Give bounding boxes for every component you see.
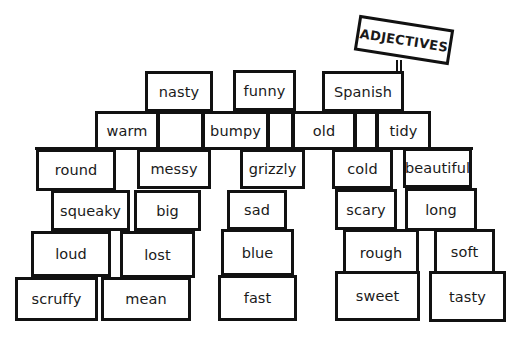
brick-label: scary	[346, 202, 385, 218]
word-brick: warm	[95, 111, 159, 150]
brick-label: scruffy	[32, 291, 82, 307]
word-brick: loud	[31, 231, 111, 277]
word-brick: blue	[221, 229, 294, 276]
brick-label: old	[313, 123, 335, 139]
brick-label: nasty	[159, 84, 199, 100]
brick-label: warm	[107, 123, 148, 139]
word-brick: mean	[101, 277, 191, 321]
blank-brick	[354, 111, 378, 150]
word-brick: round	[36, 149, 116, 191]
word-brick: scruffy	[15, 277, 98, 321]
word-brick: long	[405, 188, 477, 231]
wall-beam-line	[35, 147, 473, 150]
word-brick: beautiful	[403, 148, 472, 188]
word-brick: sad	[227, 190, 287, 230]
word-brick: grizzly	[240, 149, 305, 189]
word-brick: sweet	[335, 271, 420, 321]
word-brick: soft	[434, 229, 495, 275]
brick-label: lost	[144, 247, 171, 263]
brick-label: big	[156, 203, 179, 219]
brick-label: squeaky	[60, 203, 121, 219]
brick-label: Spanish	[334, 84, 392, 100]
sign-post	[396, 60, 402, 72]
brick-label: long	[425, 202, 457, 218]
word-brick: nasty	[145, 71, 213, 112]
brick-label: rough	[360, 245, 403, 261]
brick-label: sweet	[356, 288, 399, 304]
brick-label: tidy	[390, 123, 418, 139]
brick-label: soft	[451, 244, 478, 260]
word-brick: old	[292, 111, 356, 150]
word-brick: messy	[137, 149, 211, 189]
word-brick: fast	[218, 275, 297, 321]
brick-label: mean	[125, 291, 167, 307]
brick-label: blue	[242, 245, 274, 261]
adjectives-sign: ADJECTIVES	[354, 15, 454, 66]
brick-label: cold	[347, 161, 377, 177]
word-brick: funny	[233, 70, 296, 111]
blank-brick	[157, 111, 204, 150]
word-brick: bumpy	[202, 111, 269, 150]
brick-label: fast	[244, 290, 272, 306]
brick-label: bumpy	[210, 123, 261, 139]
word-brick: scary	[335, 189, 397, 230]
word-brick: big	[134, 190, 201, 231]
word-brick: lost	[120, 231, 195, 278]
brick-label: sad	[244, 202, 270, 218]
brick-label: loud	[55, 246, 87, 262]
brick-label: round	[55, 162, 98, 178]
word-brick: squeaky	[51, 190, 130, 231]
brick-label: funny	[244, 83, 286, 99]
brick-label: tasty	[449, 289, 486, 305]
sign-label: ADJECTIVES	[359, 26, 449, 55]
word-brick: tasty	[429, 271, 506, 322]
word-brick: Spanish	[322, 71, 404, 112]
blank-brick	[267, 111, 294, 150]
brick-label: messy	[150, 161, 197, 177]
brick-label: grizzly	[249, 161, 297, 177]
word-brick: rough	[343, 229, 419, 276]
word-brick: tidy	[376, 111, 431, 150]
brick-label: beautiful	[405, 160, 470, 176]
word-brick: cold	[332, 149, 393, 189]
